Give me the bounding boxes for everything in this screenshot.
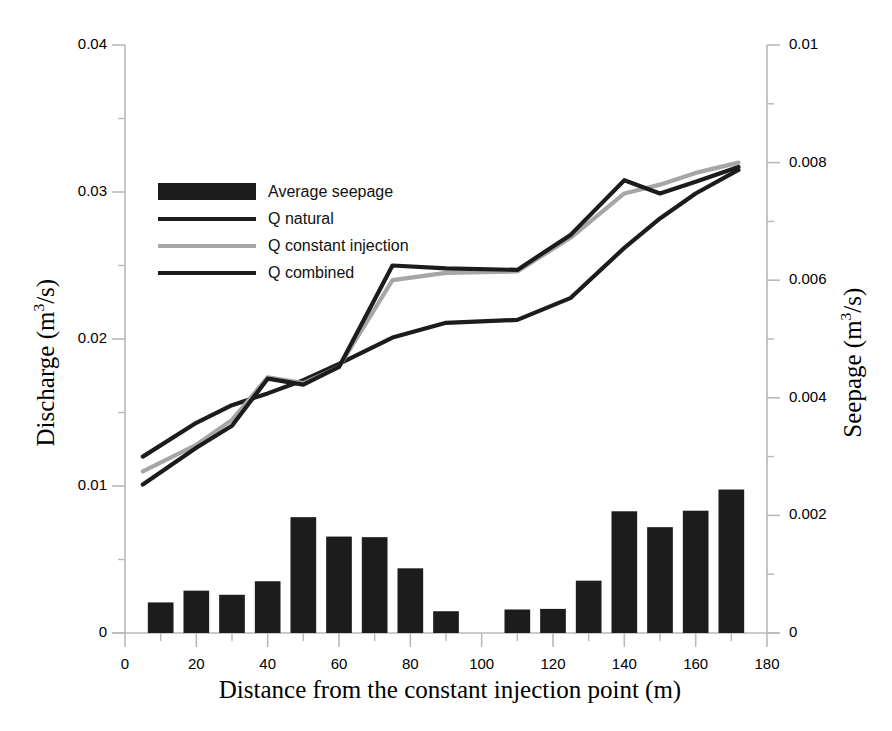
bar-average-seepage: [433, 611, 459, 633]
chart-legend: Average seepageQ naturalQ constant injec…: [158, 178, 409, 286]
bar-average-seepage: [326, 537, 352, 633]
legend-item: Q natural: [158, 205, 409, 232]
y-axis-right-tick-label: 0.004: [789, 388, 881, 405]
x-axis-tick-label: 120: [518, 655, 588, 672]
legend-label: Q constant injection: [268, 237, 409, 255]
legend-item: Q combined: [158, 259, 409, 286]
bar-average-seepage: [219, 595, 245, 633]
bar-average-seepage: [290, 517, 316, 633]
x-axis-tick-label: 140: [589, 655, 659, 672]
bars-group: [148, 490, 744, 633]
x-axis-tick-label: 40: [233, 655, 303, 672]
bar-average-seepage: [362, 537, 388, 633]
x-axis-tick-label: 60: [304, 655, 374, 672]
y-axis-left-tick-label: 0.01: [15, 476, 107, 493]
bar-average-seepage: [504, 609, 530, 633]
bar-average-seepage: [148, 602, 174, 633]
y-axis-left-tick-label: 0.04: [15, 35, 107, 52]
y-axis-right-tick-label: 0.006: [789, 270, 881, 287]
x-axis-tick-label: 100: [447, 655, 517, 672]
y-axis-right-tick-label: 0.002: [789, 505, 881, 522]
x-axis-tick-label: 80: [375, 655, 445, 672]
legend-swatch-line-icon: [158, 271, 256, 275]
legend-item: Q constant injection: [158, 232, 409, 259]
bar-average-seepage: [540, 609, 566, 633]
bar-average-seepage: [611, 511, 637, 633]
y-axis-left-tick-label: 0: [15, 623, 107, 640]
y-axis-left-tick-label: 0.03: [15, 182, 107, 199]
legend-item: Average seepage: [158, 178, 409, 205]
bar-average-seepage: [683, 511, 709, 633]
y-axis-right-tick-label: 0.008: [789, 153, 881, 170]
legend-label: Q combined: [268, 264, 354, 282]
x-axis-tick-label: 180: [732, 655, 802, 672]
x-axis-tick-label: 0: [90, 655, 160, 672]
bar-average-seepage: [718, 490, 744, 633]
figure-canvas: Discharge (m3/s) Seepage (m3/s) Distance…: [0, 0, 892, 731]
bar-average-seepage: [576, 581, 602, 633]
plot-area: [0, 0, 892, 731]
legend-label: Q natural: [268, 210, 334, 228]
legend-label: Average seepage: [268, 183, 393, 201]
y-axis-right-tick-label: 0: [789, 623, 881, 640]
bar-average-seepage: [397, 568, 423, 633]
x-axis-tick-label: 20: [161, 655, 231, 672]
legend-swatch-line-icon: [158, 217, 256, 221]
bar-average-seepage: [255, 581, 281, 633]
bar-average-seepage: [183, 591, 209, 633]
bar-average-seepage: [647, 527, 673, 633]
legend-swatch-line-icon: [158, 244, 256, 248]
x-axis-tick-label: 160: [661, 655, 731, 672]
y-axis-left-tick-label: 0.02: [15, 329, 107, 346]
y-axis-right-tick-label: 0.01: [789, 35, 881, 52]
legend-swatch-bar-icon: [158, 183, 256, 200]
axes-group: [112, 45, 780, 647]
